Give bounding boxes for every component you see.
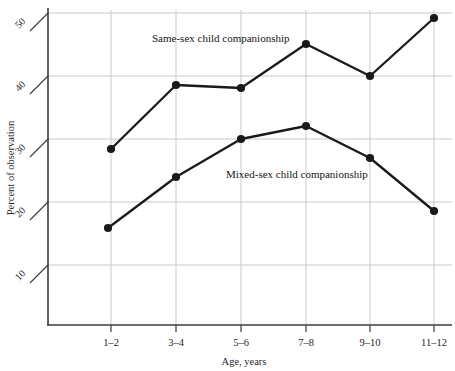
- y-tick-marks: [30, 13, 48, 283]
- data-point-mixed-sex-7-8: [302, 122, 310, 130]
- x-tick-label-11-12: 11–12: [421, 337, 447, 348]
- x-tick-label-1-2: 1–2: [103, 337, 119, 348]
- y-tick-mark-30: [30, 139, 48, 157]
- data-point-same-sex-11-12: [430, 14, 438, 22]
- series-label-same-sex: Same-sex child companionship: [152, 32, 290, 44]
- x-tick-label-9-10: 9–10: [360, 337, 381, 348]
- y-tick-mark-20: [30, 202, 48, 220]
- data-point-mixed-sex-5-6: [237, 135, 245, 143]
- data-point-mixed-sex-1-2: [104, 224, 112, 232]
- data-point-mixed-sex-9-10: [366, 154, 374, 162]
- data-point-same-sex-1-2: [107, 145, 115, 153]
- y-tick-label-50: 50: [13, 16, 28, 31]
- data-point-same-sex-5-6: [237, 84, 245, 92]
- data-point-same-sex-9-10: [366, 72, 374, 80]
- y-tick-mark-10: [30, 265, 48, 283]
- x-tick-label-5-6: 5–6: [233, 337, 249, 348]
- data-point-same-sex-3-4: [172, 81, 180, 89]
- y-tick-mark-50: [30, 13, 48, 31]
- x-tick-labels: 1–2 3–4 5–6 7–8 9–10 11–12: [103, 337, 447, 348]
- data-point-same-sex-7-8: [302, 40, 310, 48]
- x-tick-marks: [111, 325, 434, 332]
- chart-canvas: 50 40 30 20 10 1–2 3–4 5–6 7–8 9–10 11–1…: [0, 0, 455, 371]
- y-tick-label-40: 40: [13, 79, 28, 94]
- series-label-mixed-sex: Mixed-sex child companionship: [226, 168, 368, 180]
- y-tick-label-10: 10: [13, 268, 28, 283]
- x-tick-label-7-8: 7–8: [298, 337, 314, 348]
- line-chart: 50 40 30 20 10 1–2 3–4 5–6 7–8 9–10 11–1…: [0, 0, 455, 371]
- x-axis-title: Age, years: [222, 356, 267, 367]
- y-tick-mark-40: [30, 76, 48, 94]
- y-axis-title: Percent of observation: [5, 120, 16, 215]
- data-point-mixed-sex-3-4: [172, 173, 180, 181]
- x-tick-label-3-4: 3–4: [168, 337, 185, 348]
- data-point-mixed-sex-11-12: [430, 207, 438, 215]
